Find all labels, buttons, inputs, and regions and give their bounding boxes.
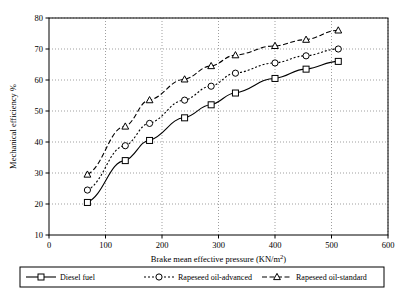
series-2-point-8 [335,27,342,33]
series-0-point-4 [208,102,214,108]
series-1-point-5 [232,70,238,76]
legend-label-2: Rapeseed oil-standard [296,273,367,282]
ytick-label-20: 20 [35,199,44,209]
series-0-point-5 [232,90,238,96]
ytick-label-30: 30 [35,168,44,178]
xtick-label-500: 500 [325,240,338,250]
series-line-0 [87,61,338,202]
xtick-label-0: 0 [47,240,51,250]
series-1-point-1 [122,143,128,149]
mechanical-efficiency-line-chart: 10203040506070800100200300400500600Brake… [0,0,404,299]
ytick-label-10: 10 [35,230,44,240]
legend-label-0: Diesel fuel [60,273,96,282]
ytick-label-70: 70 [35,44,44,54]
ytick-label-40: 40 [35,137,44,147]
series-1-point-3 [182,97,188,103]
series-0-point-7 [303,66,309,72]
series-1-point-0 [84,187,90,193]
series-1-point-4 [208,83,214,89]
series-0-point-8 [335,58,341,64]
series-0-point-1 [122,158,128,164]
legend-marker-circle-icon [156,274,162,280]
series-0-point-0 [84,199,90,205]
ytick-label-60: 60 [35,75,44,85]
ytick-label-50: 50 [35,106,44,116]
series-2-point-5 [232,52,239,58]
series-0-point-6 [272,75,278,81]
series-1-point-7 [303,53,309,59]
chart-container: 10203040506070800100200300400500600Brake… [0,0,404,299]
series-1-point-8 [335,46,341,52]
series-0-point-2 [147,137,153,143]
series-1-point-2 [146,120,152,126]
y-axis-title: Mechanical efficiency % [8,84,18,169]
xtick-label-200: 200 [156,240,169,250]
legend-label-1: Rapeseed oil-advanced [178,273,252,282]
legend-marker-square-icon [38,274,44,280]
xtick-label-100: 100 [99,240,112,250]
xtick-label-400: 400 [269,240,282,250]
xtick-label-300: 300 [212,240,225,250]
xtick-label-600: 600 [382,240,395,250]
x-axis-title: Brake mean effective pressure (KN/m2) [151,253,286,264]
series-2-point-1 [122,123,129,129]
series-2-point-0 [84,171,91,177]
series-0-point-3 [182,115,188,121]
ytick-label-80: 80 [35,13,44,23]
series-1-point-6 [272,60,278,66]
